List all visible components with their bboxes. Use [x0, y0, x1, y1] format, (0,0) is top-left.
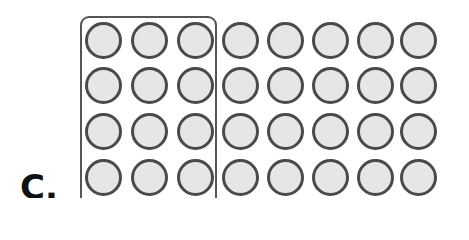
circle-icon: [131, 113, 168, 150]
circle-icon: [131, 159, 168, 196]
circle-icon: [357, 67, 394, 104]
circle-icon: [357, 159, 394, 196]
circle-icon: [357, 22, 394, 59]
circle-icon: [400, 159, 437, 196]
circle-icon: [400, 22, 437, 59]
circle-icon: [312, 67, 349, 104]
circle-icon: [85, 159, 122, 196]
circle-icon: [267, 22, 304, 59]
circle-icon: [177, 22, 214, 59]
circle-icon: [267, 67, 304, 104]
circle-icon: [357, 113, 394, 150]
part-label: C.: [20, 170, 58, 198]
circle-icon: [131, 22, 168, 59]
circle-icon: [400, 113, 437, 150]
circle-icon: [85, 67, 122, 104]
circle-icon: [400, 67, 437, 104]
circle-icon: [312, 22, 349, 59]
circle-icon: [222, 159, 259, 196]
circle-icon: [222, 22, 259, 59]
circle-icon: [131, 67, 168, 104]
circle-icon: [222, 67, 259, 104]
circle-icon: [312, 159, 349, 196]
circle-icon: [177, 159, 214, 196]
circle-icon: [85, 113, 122, 150]
circle-icon: [267, 159, 304, 196]
circle-icon: [177, 113, 214, 150]
circle-icon: [177, 67, 214, 104]
circle-icon: [85, 22, 122, 59]
circle-icon: [222, 113, 259, 150]
circle-icon: [312, 113, 349, 150]
circle-icon: [267, 113, 304, 150]
